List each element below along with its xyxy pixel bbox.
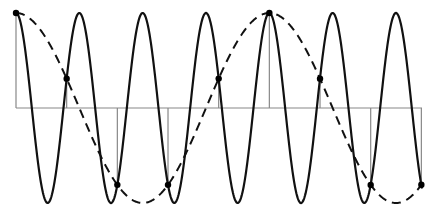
sample-point [165, 182, 171, 188]
diagram-svg [0, 0, 437, 216]
sample-stems [16, 13, 421, 185]
sample-point [114, 182, 120, 188]
sample-point [317, 75, 323, 81]
aliasing-diagram [0, 0, 437, 216]
sample-point [13, 10, 19, 16]
sample-point [215, 75, 221, 81]
sample-point [266, 10, 272, 16]
sample-point [63, 75, 69, 81]
sample-point [367, 182, 373, 188]
sample-point [418, 182, 424, 188]
